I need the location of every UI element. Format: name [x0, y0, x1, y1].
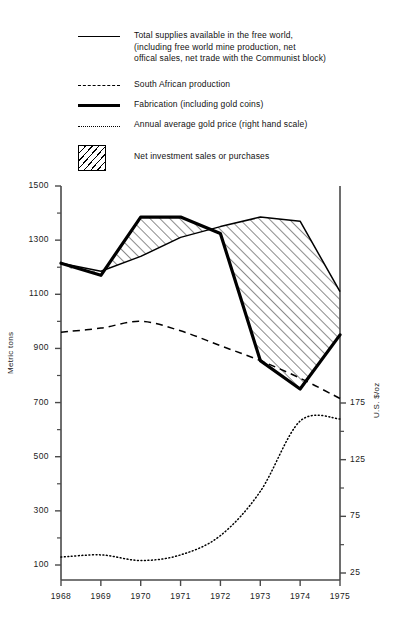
y-axis-right-tick-label: 75 — [350, 510, 384, 520]
y-axis-right-tick-label: 125 — [350, 454, 384, 464]
y-axis-left-tick-label: 500 — [15, 451, 49, 461]
x-axis-tick-label: 1974 — [280, 591, 320, 601]
y-axis-right-tick-label: 175 — [350, 397, 384, 407]
x-axis-tick-label: 1968 — [41, 591, 81, 601]
y-axis-left-tick-label: 1500 — [15, 180, 49, 190]
y-axis-left-title: Metric tons — [6, 332, 15, 374]
x-axis-tick-label: 1972 — [200, 591, 240, 601]
chart-plot-area — [0, 0, 396, 639]
x-axis-tick-label: 1971 — [161, 591, 201, 601]
y-axis-left-tick-label: 1300 — [15, 234, 49, 244]
series-gold-price — [61, 415, 340, 560]
x-axis-tick-label: 1973 — [240, 591, 280, 601]
y-axis-left-tick-label: 700 — [15, 397, 49, 407]
x-axis-ticks — [61, 580, 340, 586]
y-axis-left-tick-label: 1100 — [15, 288, 49, 298]
y-axis-left-tick-label: 100 — [15, 559, 49, 569]
x-axis-tick-label: 1969 — [81, 591, 121, 601]
y-axis-right-tick-label: 25 — [350, 567, 384, 577]
x-axis-tick-label: 1975 — [320, 591, 360, 601]
y-axis-left-tick-label: 900 — [15, 342, 49, 352]
y-axis-left-tick-label: 300 — [15, 505, 49, 515]
x-axis-tick-label: 1970 — [121, 591, 161, 601]
